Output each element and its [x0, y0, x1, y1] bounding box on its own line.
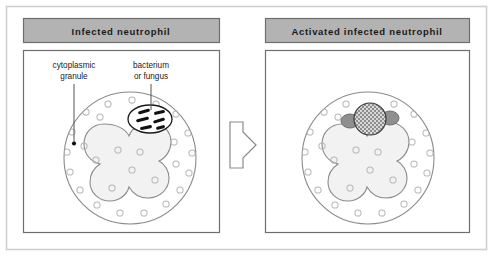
panel-infected-neutrophil: Infected neutrophil — [24, 19, 220, 233]
callout-granule-line1: cytoplasmic — [53, 61, 96, 70]
neutrophil-activation-figure: Infected neutrophil — [0, 0, 493, 256]
panel-activated-title: Activated infected neutrophil — [291, 26, 442, 37]
phagosome-vesicle — [354, 103, 386, 135]
callout-microbe-line1: bacterium — [133, 61, 169, 70]
neutrophil-nucleus — [84, 122, 171, 201]
process-arrow — [230, 122, 256, 168]
callout-granule-anchor-dot — [72, 141, 76, 145]
panel-activated-infected-neutrophil: Activated infected neutrophil — [266, 19, 470, 233]
callout-granule-line2: granule — [60, 72, 88, 81]
callout-microbe-line2: or fungus — [134, 72, 168, 81]
panel-infected-title: Infected neutrophil — [72, 26, 171, 37]
bacterium-vacuole — [128, 105, 172, 133]
